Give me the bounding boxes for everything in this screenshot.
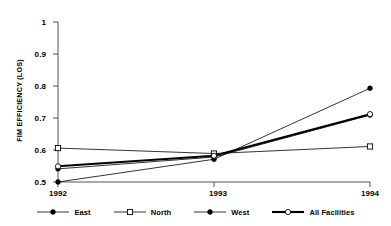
legend: EastNorthWestAll Facilities [0, 202, 391, 222]
filled-circle-icon [36, 207, 70, 217]
open-circle-icon [271, 207, 305, 217]
legend-label: West [231, 208, 249, 217]
data-point [211, 153, 216, 158]
open-square-icon [113, 207, 147, 217]
data-point [55, 145, 60, 150]
series-line [58, 88, 370, 182]
axes [53, 22, 370, 187]
legend-item-west[interactable]: West [193, 207, 249, 217]
series-east [56, 86, 373, 185]
filled-circle-icon [193, 207, 227, 217]
legend-label: East [74, 208, 90, 217]
legend-label: All Facilities [309, 208, 354, 217]
data-point [56, 180, 61, 185]
y-axis-ticks [53, 22, 58, 182]
legend-item-east[interactable]: East [36, 207, 90, 217]
x-axis-ticks [58, 182, 370, 187]
legend-label: North [151, 208, 172, 217]
plot-area [0, 0, 391, 226]
data-point [367, 144, 372, 149]
legend-item-all-facilities[interactable]: All Facilities [271, 207, 354, 217]
legend-item-north[interactable]: North [113, 207, 172, 217]
data-point [367, 112, 372, 117]
data-point [368, 86, 373, 91]
data-point [55, 164, 60, 169]
data-series-group [55, 86, 372, 185]
line-chart: FIM EFFICIENCY (LOS) 1 0.9 0.8 0.7 0.6 0… [0, 0, 391, 226]
